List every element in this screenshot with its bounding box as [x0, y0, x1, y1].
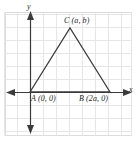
vertex-label-a: A (0, 0) — [31, 95, 56, 103]
coordinate-plane-figure: C (a, b) A (0, 0) B (2a, 0) x y — [0, 0, 138, 141]
y-axis-label: y — [27, 3, 31, 11]
vertex-label-b: B (2a, 0) — [79, 95, 108, 103]
x-axis-label: x — [129, 86, 133, 94]
vertex-label-c: C (a, b) — [64, 17, 89, 25]
